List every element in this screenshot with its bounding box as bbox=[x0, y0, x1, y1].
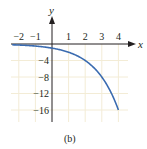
y-tick-label: −4 bbox=[38, 55, 49, 66]
x-tick-labels: −2−11234 bbox=[13, 31, 120, 42]
y-axis-arrow-icon bbox=[49, 16, 55, 24]
x-tick-label: 1 bbox=[66, 31, 71, 42]
x-axis-label: x bbox=[137, 38, 143, 50]
x-tick-label: 3 bbox=[99, 31, 104, 42]
x-tick-label: 2 bbox=[83, 31, 88, 42]
chart-figure: −2−11234 −4−8−12−16 x y (b) bbox=[0, 0, 147, 149]
grid-lines bbox=[11, 44, 128, 122]
x-tick-label: −1 bbox=[30, 31, 41, 42]
y-tick-label: −12 bbox=[33, 88, 49, 99]
x-axis-arrow-icon bbox=[128, 41, 136, 47]
y-tick-label: −8 bbox=[38, 72, 49, 83]
y-axis-label: y bbox=[48, 4, 54, 16]
figure-caption: (b) bbox=[64, 133, 76, 145]
x-tick-label: −2 bbox=[13, 31, 24, 42]
y-tick-label: −16 bbox=[33, 105, 49, 116]
x-tick-label: 4 bbox=[116, 31, 121, 42]
